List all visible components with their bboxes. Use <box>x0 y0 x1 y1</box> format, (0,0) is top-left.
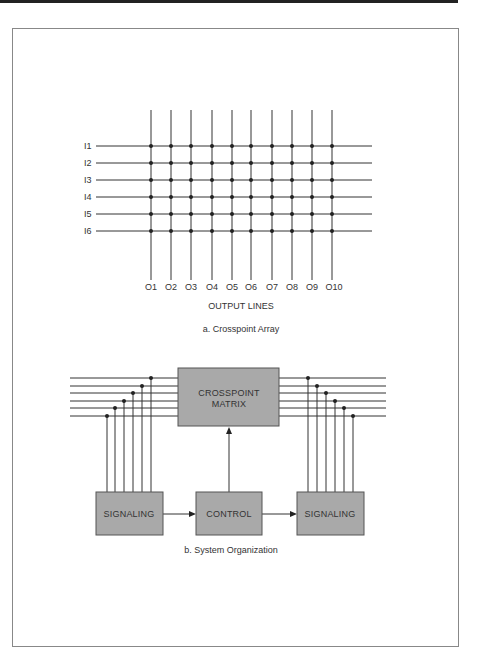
output-label: O3 <box>185 282 197 292</box>
arrow-right-icon <box>189 511 196 517</box>
output-label: O4 <box>206 282 218 292</box>
matrix-label-line1: CROSSPOINT <box>198 388 260 398</box>
output-label: O5 <box>226 282 238 292</box>
output-label: O6 <box>245 282 257 292</box>
output-label: O7 <box>266 282 278 292</box>
input-label: I1 <box>84 141 92 151</box>
caption-b: b. System Organization <box>184 545 278 555</box>
left-signaling-label: SIGNALING <box>104 509 155 519</box>
input-labels: I1 I2 I3 I4 I5 I6 <box>84 141 92 236</box>
input-label: I5 <box>84 209 92 219</box>
output-label: O1 <box>145 282 157 292</box>
output-label: O2 <box>165 282 177 292</box>
crosspoint-dots <box>149 144 334 233</box>
diagram-canvas: I1 I2 I3 I4 I5 I6 O1 O2 O3 O4 O5 O6 O7 O… <box>0 0 479 667</box>
output-lines-label: OUTPUT LINES <box>208 301 273 311</box>
matrix-label-line2: MATRIX <box>212 399 247 409</box>
arrow-right-icon <box>290 511 297 517</box>
input-label: I2 <box>84 158 92 168</box>
caption-a: a. Crosspoint Array <box>203 324 280 334</box>
right-signaling-label: SIGNALING <box>305 509 356 519</box>
crosspoint-array <box>96 110 372 280</box>
output-labels: O1 O2 O3 O4 O5 O6 O7 O8 O9 O10 <box>145 282 343 292</box>
input-label: I6 <box>84 226 92 236</box>
control-label: CONTROL <box>206 509 251 519</box>
input-label: I4 <box>84 192 92 202</box>
output-label: O8 <box>286 282 298 292</box>
input-label: I3 <box>84 175 92 185</box>
output-label: O9 <box>306 282 318 292</box>
output-label: O10 <box>325 282 342 292</box>
arrow-up-icon <box>226 427 232 434</box>
